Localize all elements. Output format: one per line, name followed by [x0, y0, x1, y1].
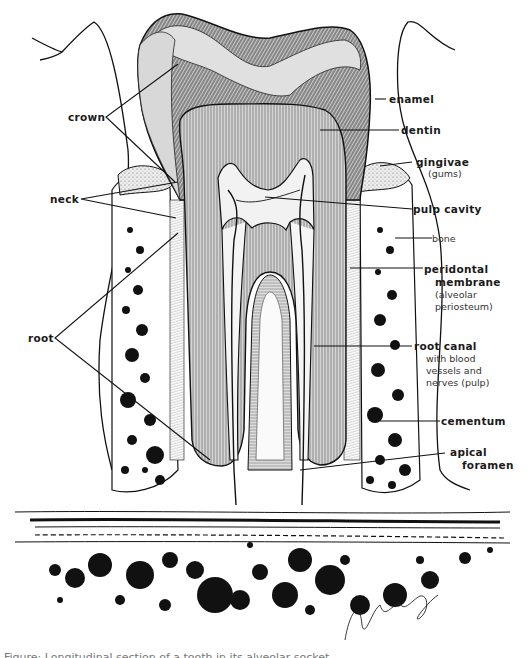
figure-caption-cropped: Figure: Longitudinal section of a tooth … — [4, 652, 334, 658]
label-root-canal-sub-2: vessels and — [426, 365, 482, 377]
label-peridontal-sub-2: periosteum) — [435, 301, 493, 313]
label-root-canal-sub-3: nerves (pulp) — [426, 377, 489, 389]
jaw-lines — [15, 512, 510, 543]
tooth-diagram — [0, 0, 530, 658]
label-gingivae: gingivae — [416, 156, 469, 168]
label-gingivae-sub: (gums) — [428, 168, 462, 180]
label-cementum: cementum — [441, 415, 506, 427]
label-pulp-cavity: pulp cavity — [413, 203, 482, 215]
label-root-canal-sub-1: with blood — [426, 353, 476, 365]
label-enamel: enamel — [389, 93, 434, 105]
label-neck: neck — [50, 193, 79, 205]
label-peridontal-sub-1: (alveolar — [435, 289, 477, 301]
label-bone: bone — [432, 233, 456, 245]
label-crown: crown — [68, 111, 105, 123]
label-peridontal: peridontal — [424, 263, 488, 275]
periodontal-left — [170, 200, 184, 460]
label-foramen: foramen — [462, 459, 514, 471]
label-root: root — [28, 332, 54, 344]
label-peridontal-2: membrane — [435, 276, 501, 288]
alveolar-bone-right — [355, 163, 420, 493]
label-dentin: dentin — [401, 124, 441, 136]
label-root-canal: root canal — [414, 340, 477, 352]
label-apical: apical — [450, 446, 487, 458]
